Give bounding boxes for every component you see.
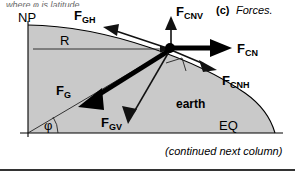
equator-label: EQ — [219, 118, 238, 133]
force-fcnh-label: FCNH — [222, 73, 249, 90]
radius-label: R — [60, 33, 69, 48]
earth-body-label: earth — [176, 97, 205, 111]
force-fcn-label: FCN — [237, 41, 258, 58]
north-pole-label: NP — [18, 10, 36, 25]
panel-title-label: Forces. — [236, 4, 273, 16]
figure-page: where φ is latitude. φ R NP EQ earth — [0, 0, 295, 176]
force-origin-point — [165, 43, 175, 53]
force-fgh-arrowhead — [103, 24, 119, 36]
force-fgh-label: FGH — [74, 8, 95, 25]
force-fcnv-label: FCNV — [176, 4, 203, 21]
latitude-symbol-label: φ — [44, 118, 52, 133]
forces-diagram: φ R NP EQ earth FGH FG FGV FCNV F — [0, 0, 295, 176]
force-fcn-arrowhead — [210, 39, 232, 57]
figure-caption: (continued next column) — [165, 145, 283, 157]
panel-tag-label: (c) — [216, 4, 230, 16]
